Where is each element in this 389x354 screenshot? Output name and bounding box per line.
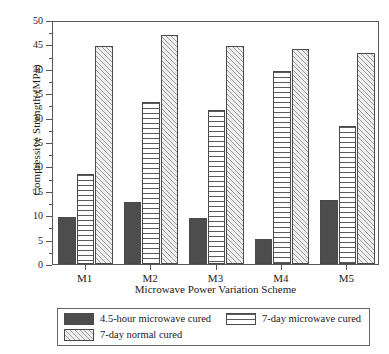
bar: [189, 218, 207, 264]
bar: [161, 35, 179, 264]
y-tick-label: 35: [17, 87, 43, 100]
legend-entry: 7-day microwave cured: [226, 313, 361, 325]
bar: [320, 200, 338, 264]
bar: [77, 174, 95, 264]
legend-entry: 7-day normal cured: [64, 329, 182, 341]
legend-label: 7-day normal cured: [100, 329, 182, 341]
bar: [273, 71, 291, 264]
x-tick-mark: [85, 265, 86, 270]
x-tick-mark: [150, 265, 151, 270]
bar: [95, 46, 113, 264]
bar: [124, 202, 142, 264]
bar: [292, 49, 310, 264]
bar: [226, 46, 244, 264]
legend-entry: 4.5-hour microwave cured: [64, 313, 211, 325]
bar: [58, 217, 76, 264]
y-tick-label: 40: [17, 63, 43, 76]
y-tick-label: 15: [17, 185, 43, 198]
y-tick-label: 10: [17, 209, 43, 222]
legend-swatch: [64, 313, 94, 325]
legend-swatch: [226, 313, 256, 325]
bar: [208, 110, 226, 264]
chart-figure: Compressive Strength (MPa) 0510152025303…: [0, 0, 389, 354]
y-tick-label: 0: [17, 258, 43, 271]
y-tick-label: 50: [17, 14, 43, 27]
chart-legend: 4.5-hour microwave cured7-day microwave …: [57, 308, 370, 346]
plot-area: [52, 21, 379, 265]
x-axis-label: Microwave Power Variation Scheme: [52, 283, 379, 295]
bar: [142, 102, 160, 264]
bar: [357, 53, 375, 264]
y-tick-label: 20: [17, 160, 43, 173]
bar: [255, 239, 273, 264]
y-tick-label: 45: [17, 38, 43, 51]
y-tick-label: 5: [17, 234, 43, 247]
y-tick-mark: [46, 265, 52, 266]
x-tick-mark: [346, 265, 347, 270]
y-tick-label: 25: [17, 136, 43, 149]
legend-label: 7-day microwave cured: [262, 313, 361, 325]
legend-label: 4.5-hour microwave cured: [100, 313, 211, 325]
legend-swatch: [64, 329, 94, 341]
bar: [339, 126, 357, 264]
x-tick-mark: [281, 265, 282, 270]
x-tick-mark: [216, 265, 217, 270]
y-tick-label: 30: [17, 112, 43, 125]
